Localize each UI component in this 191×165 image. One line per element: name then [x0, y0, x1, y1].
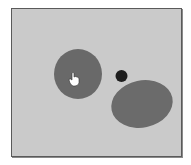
scene [0, 0, 191, 165]
right-ellipse[interactable] [107, 75, 177, 134]
small-dot[interactable] [116, 70, 128, 82]
left-circle[interactable] [54, 49, 102, 99]
